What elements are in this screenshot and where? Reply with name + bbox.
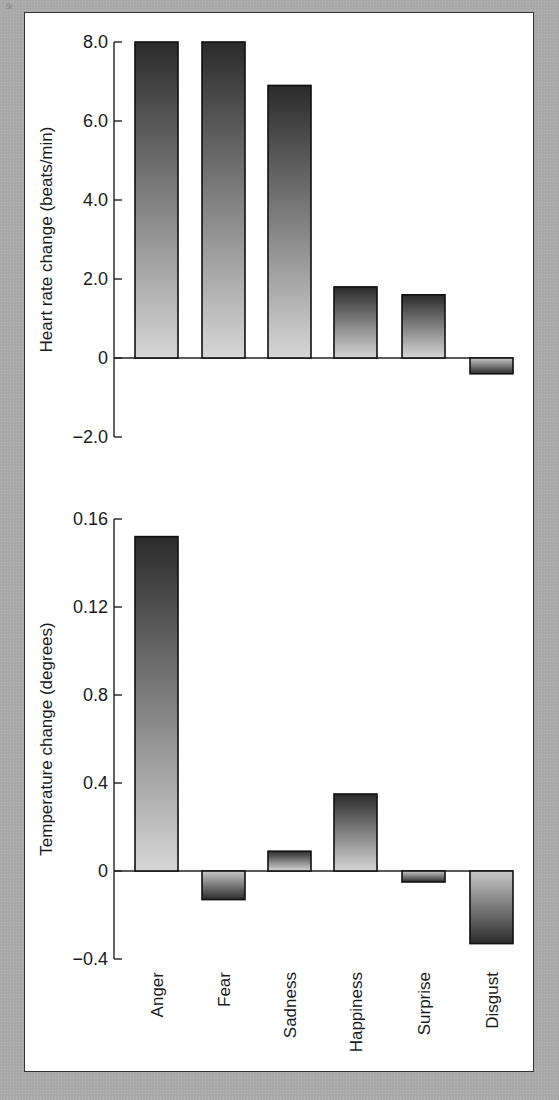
bar-surprise <box>402 295 445 358</box>
bar-happiness <box>334 794 377 871</box>
y-tick-label: −2.0 <box>72 427 108 447</box>
category-label-anger: Anger <box>148 972 167 1018</box>
category-labels: AngerFearSadnessHappinessSurpriseDisgust <box>148 972 502 1053</box>
y-axis-title: Temperature change (degrees) <box>37 622 56 855</box>
category-label-happiness: Happiness <box>347 972 366 1052</box>
y-tick-label: 0 <box>98 348 108 368</box>
y-tick-label: −0.4 <box>72 949 108 969</box>
bar-anger <box>135 42 178 358</box>
category-label-disgust: Disgust <box>483 972 502 1029</box>
bar-charts: 8.06.04.02.00−2.0Heart rate change (beat… <box>0 0 559 1100</box>
bar-sadness <box>268 85 311 358</box>
category-label-sadness: Sadness <box>281 972 300 1038</box>
bar-disgust <box>470 358 513 374</box>
heart-rate-chart: 8.06.04.02.00−2.0Heart rate change (beat… <box>37 32 513 447</box>
y-tick-label: 0 <box>98 861 108 881</box>
bar-anger <box>135 537 178 871</box>
category-label-fear: Fear <box>215 972 234 1007</box>
bar-fear <box>202 871 245 900</box>
y-tick-label: 8.0 <box>83 32 108 52</box>
bar-disgust <box>470 871 513 944</box>
y-tick-label: 0.4 <box>83 773 108 793</box>
y-axis-title: Heart rate change (beats/min) <box>37 127 56 353</box>
y-tick-label: 0.8 <box>83 685 108 705</box>
bar-surprise <box>402 871 445 882</box>
temperature-chart: 0.160.120.80.40−0.4Temperature change (d… <box>37 509 513 969</box>
y-tick-label: 0.16 <box>73 509 108 529</box>
y-tick-label: 4.0 <box>83 190 108 210</box>
category-label-surprise: Surprise <box>415 972 434 1035</box>
bar-happiness <box>334 287 377 358</box>
bar-sadness <box>268 851 311 871</box>
y-tick-label: 6.0 <box>83 111 108 131</box>
y-tick-label: 2.0 <box>83 269 108 289</box>
bar-fear <box>202 42 245 358</box>
y-tick-label: 0.12 <box>73 597 108 617</box>
